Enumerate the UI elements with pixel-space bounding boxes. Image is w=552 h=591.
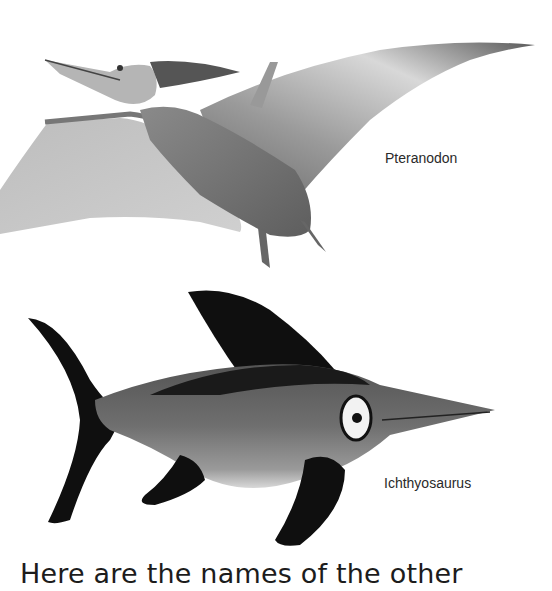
pteranodon-illustration bbox=[0, 0, 552, 591]
body-text: Here are the names of the other bbox=[20, 558, 463, 589]
ichthyosaurus-label: Ichthyosaurus bbox=[384, 475, 471, 491]
pteranodon-label: Pteranodon bbox=[385, 150, 457, 166]
